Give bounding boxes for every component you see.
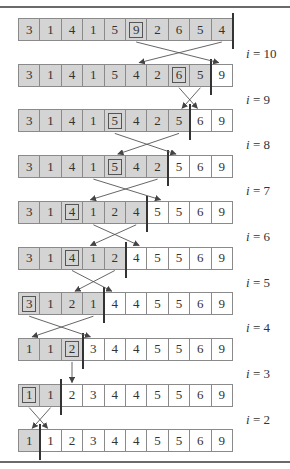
array-cell: 5 [146,201,168,224]
cell-value: 1 [90,204,97,220]
boxed-max-value: 2 [65,341,80,357]
array-cell: 5 [146,429,168,452]
array-cell: 2 [146,18,168,41]
swap-arrow [32,408,50,429]
array-cell: 5 [104,18,126,41]
cell-value: 1 [90,159,97,175]
array-cell: 9 [211,292,233,315]
cell-value: 1 [90,296,97,312]
array-cell: 4 [125,292,147,315]
cell-value: 1 [26,341,33,357]
array-cell: 6 [168,18,190,41]
top-rule [0,6,290,8]
array-cell: 3 [18,247,40,270]
cell-value: 2 [154,159,161,175]
boxed-max-value: 5 [108,113,123,129]
cell-value: 5 [197,22,204,38]
cell-value: 5 [154,341,161,357]
heap-boundary-divider [103,287,105,323]
array-cell: 1 [39,201,61,224]
array-cell: 3 [82,384,104,407]
swap-arrow [72,271,112,292]
array-cell: 5 [146,247,168,270]
array-cell: 9 [125,18,147,41]
boxed-max-value: 6 [172,67,187,83]
cell-value: 9 [218,387,225,403]
array-cell: 4 [125,247,147,270]
cell-value: 4 [133,296,140,312]
array-cell: 4 [211,18,233,41]
array-cell: 2 [104,201,126,224]
cell-value: 3 [26,113,33,129]
cell-value: 2 [69,296,76,312]
boxed-max-value: 4 [65,204,80,220]
cell-value: 6 [197,296,204,312]
cell-value: 1 [90,113,97,129]
cell-value: 4 [69,22,76,38]
swap-arrow [32,316,93,337]
swap-arrow [118,133,179,154]
cell-value: 4 [133,204,140,220]
array-cell: 5 [168,429,190,452]
iteration-label: i = 4 [246,320,270,336]
array-cell: 9 [211,384,233,407]
cell-value: 3 [90,387,97,403]
array-cell: 5 [189,18,211,41]
cell-value: 5 [112,67,119,83]
cell-value: 4 [218,22,225,38]
array-cell: 9 [211,247,233,270]
cell-value: 1 [47,204,54,220]
array-cell: 1 [82,64,104,87]
boxed-max-value: 5 [108,159,123,175]
array-cell: 9 [211,64,233,87]
array-cell: 5 [168,155,190,178]
cell-value: 5 [154,387,161,403]
array-cell: 5 [168,247,190,270]
array-row: 3141542659 [18,64,233,87]
cell-value: 6 [176,22,183,38]
array-cell: 6 [189,155,211,178]
array-cell: 4 [125,201,147,224]
cell-value: 9 [218,67,225,83]
array-cell: 5 [168,292,190,315]
iteration-label: i = 8 [246,137,270,153]
cell-value: 2 [112,250,119,266]
array-cell: 3 [18,155,40,178]
cell-value: 5 [176,296,183,312]
cell-value: 3 [90,341,97,357]
array-cell: 2 [61,429,83,452]
cell-value: 1 [47,433,54,449]
array-cell: 1 [39,18,61,41]
cell-value: 1 [90,67,97,83]
array-cell: 4 [104,338,126,361]
swap-arrow [75,271,115,292]
array-cell: 6 [189,201,211,224]
array-cell: 6 [189,247,211,270]
array-cell: 1 [82,292,104,315]
cell-value: 5 [176,204,183,220]
array-cell: 1 [39,64,61,87]
cell-value: 6 [197,113,204,129]
array-cell: 1 [82,247,104,270]
cell-value: 2 [112,204,119,220]
array-cell: 6 [168,64,190,87]
array-cell: 5 [189,64,211,87]
cell-value: 4 [112,341,119,357]
array-cell: 3 [18,201,40,224]
cell-value: 4 [112,296,119,312]
array-cell: 9 [211,155,233,178]
cell-value: 9 [218,433,225,449]
cell-value: 1 [47,113,54,129]
array-cell: 3 [82,429,104,452]
array-cell: 6 [189,384,211,407]
cell-value: 5 [176,250,183,266]
array-cell: 3 [82,338,104,361]
array-cell: 2 [61,292,83,315]
cell-value: 1 [47,159,54,175]
cell-value: 6 [197,204,204,220]
array-cell: 1 [82,109,104,132]
array-row: 1123445569 [18,429,233,452]
array-cell: 1 [39,429,61,452]
array-cell: 2 [61,338,83,361]
cell-value: 5 [154,433,161,449]
